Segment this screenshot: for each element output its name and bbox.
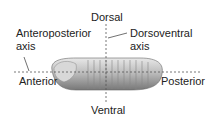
dv-axis-label-line1: Dorsoventral <box>130 27 192 39</box>
ap-axis-label-line2: axis <box>16 40 36 52</box>
ap-axis-leader <box>24 57 29 71</box>
anterior-label: Anterior <box>19 75 58 87</box>
ap-axis-label-line1: Anteroposterior <box>16 27 91 39</box>
ventral-label: Ventral <box>91 104 125 116</box>
dv-axis-label-line2: axis <box>130 40 150 52</box>
dv-axis-leader <box>108 33 127 38</box>
posterior-label: Posterior <box>161 75 205 87</box>
embryo-body <box>52 58 163 90</box>
dorsal-label: Dorsal <box>91 11 123 23</box>
